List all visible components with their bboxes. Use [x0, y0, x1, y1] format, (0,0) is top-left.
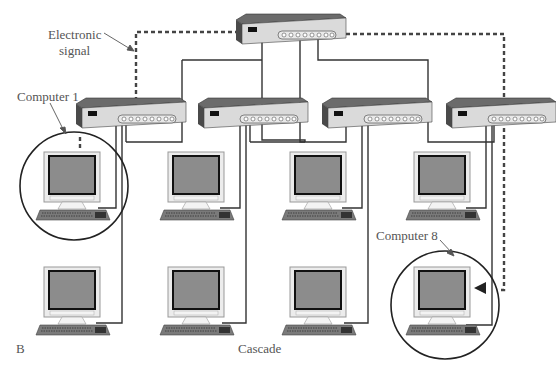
hub-2 [198, 98, 308, 128]
computer-3 [282, 152, 356, 220]
hub-4 [446, 98, 556, 128]
computer-7 [282, 267, 356, 335]
computer-8-label: Computer 8 [376, 228, 438, 243]
signal-label-leader [104, 33, 132, 50]
diagram-title: Cascade [238, 341, 282, 356]
top-hub [236, 14, 346, 44]
computer-1-label-leader [50, 103, 64, 131]
hub-1 [76, 98, 186, 128]
computer-8 [406, 267, 480, 335]
cascade-network-diagram: Electronic signal Computer 1 Computer 8 … [0, 0, 556, 374]
cable-hub-2-computer-6 [222, 125, 246, 323]
cable-hub-3-computer-7 [344, 125, 368, 323]
signal-label-line1: Electronic [48, 27, 102, 42]
computer-2 [160, 152, 234, 220]
computer-1 [36, 152, 110, 220]
signal-label-line2: signal [59, 43, 90, 58]
hub-3 [322, 98, 432, 128]
panel-label: B [16, 341, 25, 356]
signal-arrowhead-icon [474, 282, 486, 294]
computer-1-label: Computer 1 [17, 89, 79, 104]
cable-top-hub-2-drop [262, 40, 305, 142]
computer-5 [36, 267, 110, 335]
signal-hub-1-to-top-hub [136, 32, 250, 108]
computer-6 [160, 267, 234, 335]
cable-hub-1-computer-1 [98, 125, 116, 208]
computer-4 [406, 152, 480, 220]
